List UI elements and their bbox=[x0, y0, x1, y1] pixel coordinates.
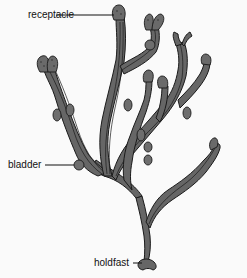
bladder-mid-right-2 bbox=[144, 142, 152, 152]
receptacle-top bbox=[112, 5, 125, 20]
bladder-lower-mid bbox=[137, 129, 145, 141]
seaweed-illustration: receptacle bladder holdfast bbox=[0, 0, 247, 278]
seaweed-diagram: receptacle bladder holdfast bbox=[0, 0, 247, 278]
bladder-center bbox=[124, 99, 132, 111]
bladder-left-1 bbox=[53, 109, 61, 121]
holdfast-label: holdfast bbox=[94, 257, 129, 268]
bladder-mid-right bbox=[183, 107, 191, 119]
receptacle-mid bbox=[158, 76, 168, 88]
holdfast bbox=[138, 259, 156, 270]
bladder-labelled bbox=[74, 160, 84, 170]
branch-left bbox=[44, 68, 108, 176]
receptacle-left-2 bbox=[47, 56, 57, 72]
bladder-lower-mid-2 bbox=[144, 155, 152, 165]
branch-mid-small bbox=[156, 86, 168, 122]
bladder-label: bladder bbox=[8, 159, 42, 170]
branch-right-lower bbox=[146, 144, 220, 228]
receptacle-lower-mid bbox=[143, 70, 153, 82]
receptacle-label: receptacle bbox=[28, 9, 75, 20]
receptacle-upper-2 bbox=[152, 14, 164, 30]
receptacle-far-right bbox=[201, 54, 211, 65]
bladder-left-2 bbox=[66, 104, 74, 116]
stipe bbox=[136, 196, 150, 262]
bladder-upper bbox=[145, 40, 155, 50]
